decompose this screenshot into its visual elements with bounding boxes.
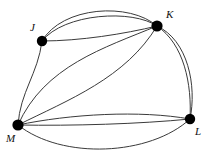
graph-edge-j-m (18, 41, 42, 125)
graph-edge-k-l (157, 26, 190, 119)
graph-vertex-k (151, 20, 162, 31)
graph-vertex-j (37, 36, 47, 46)
vertex-label-l: L (195, 126, 201, 137)
edge-layer (18, 11, 192, 149)
vertex-label-m: M (6, 133, 15, 144)
graph-vertex-m (12, 119, 23, 130)
graph-edge-m-l (18, 119, 190, 149)
vertex-label-j: J (30, 22, 35, 33)
vertex-label-k: K (166, 9, 173, 20)
graph-edge-m-l (18, 114, 190, 125)
graph-vertex-l (185, 114, 195, 124)
graph-figure: JKLM (0, 0, 204, 156)
graph-edge-k-l (157, 26, 192, 119)
